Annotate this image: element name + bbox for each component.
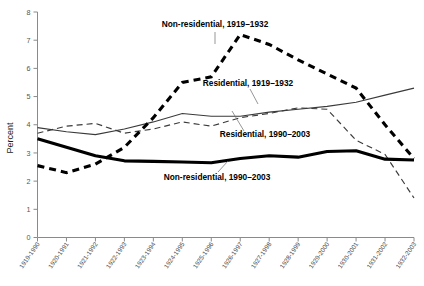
y-tick-label: 5 [27,92,31,101]
y-tick-label: 2 [27,177,31,186]
x-tick-label: 1926-1997 [220,240,244,269]
x-tick-label: 1932-2003 [394,240,418,269]
x-tick-label: 1923-1994 [133,240,157,269]
x-tick-label: 1930-2001 [336,240,360,269]
x-tick-label: 1925-1996 [191,240,215,269]
y-tick-label: 6 [27,64,31,73]
series-line-thin-solid [38,88,415,135]
x-tick-label: 1928-1999 [278,240,302,269]
x-tick-label: 1919-1990 [18,240,42,269]
x-tick-group [38,238,415,242]
leader-line-res-1990 [232,111,244,131]
x-tick-label-group: 1919-19901920-19911921-19921922-19931923… [18,240,418,269]
annotation-residential-1990-2003: Residential, 1990–2003 [220,129,311,139]
x-tick-label: 1924-1995 [162,240,186,269]
y-tick-label: 3 [27,149,31,158]
x-tick-label: 1927-1998 [249,240,273,269]
y-tick-label: 8 [27,8,31,17]
y-axis: 012345678 Percent [5,8,38,243]
y-tick-group: 012345678 [27,8,38,243]
y-tick-label: 0 [27,233,31,242]
leader-line-res-1919 [250,89,258,104]
x-tick-label: 1921-1992 [75,240,99,269]
x-tick-label: 1920-1991 [47,240,71,269]
y-tick-label: 1 [27,205,31,214]
chart-container: 012345678 Percent 1919-19901920-19911921… [0,0,424,286]
x-axis: 1919-19901920-19911921-19921922-19931923… [18,238,418,270]
x-tick-label: 1931-2002 [365,240,389,269]
series-line-thick-solid [38,139,415,163]
y-tick-label: 4 [27,120,31,129]
x-tick-label: 1929-2000 [307,240,331,269]
series-line-thin-dashed [38,108,415,198]
annotation-residential-1919-1932: Residential, 1919–1932 [203,78,294,88]
x-tick-label: 1922-1993 [104,240,128,269]
y-tick-label: 7 [27,36,31,45]
annotation-nonresidential-1990-2003: Non-residential, 1990–2003 [164,172,271,182]
line-chart: 012345678 Percent 1919-19901920-19911921… [0,0,424,286]
annotation-nonresidential-1919-1932: Non-residential, 1919–1932 [162,19,269,29]
y-axis-title: Percent [5,122,15,154]
